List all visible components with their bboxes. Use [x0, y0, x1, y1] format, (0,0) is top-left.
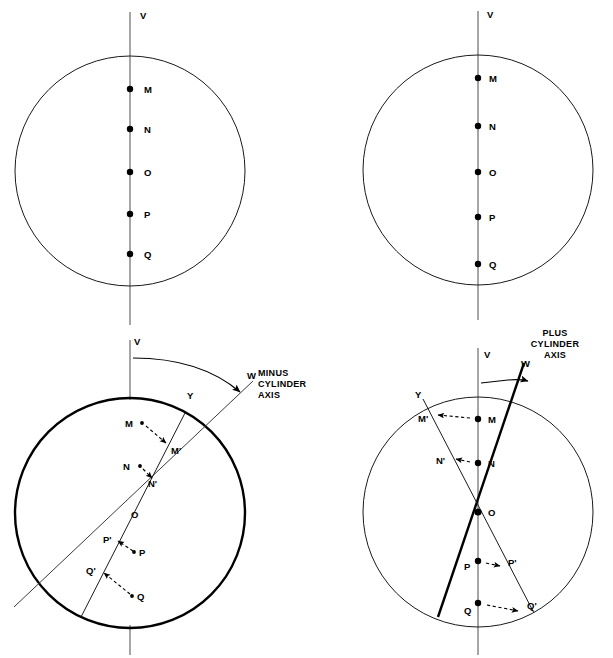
- point-label-n: N: [488, 458, 495, 469]
- displacement-arrow-q: [487, 605, 518, 611]
- axis-label-w: W: [247, 370, 256, 381]
- point-label-n: N: [489, 121, 496, 132]
- panel-top-right: V M N O P Q: [363, 9, 593, 320]
- point-dot-m: [140, 421, 144, 425]
- point-label-o: O: [131, 509, 138, 520]
- rotation-arc: [481, 380, 528, 383]
- point-dot-p: [132, 550, 136, 554]
- point-label-p: P: [144, 209, 151, 220]
- point-dot-n: [138, 464, 142, 468]
- cylinder-axis-diagram: V M N O P Q V M N O P Q: [0, 0, 613, 658]
- chord-label-y: Y: [415, 389, 422, 400]
- point-label-o: O: [144, 167, 151, 178]
- point-label-n: N: [123, 461, 130, 472]
- point-label-p: P: [464, 561, 471, 572]
- point-dot-q: [127, 251, 133, 257]
- displacement-arrow-m: [438, 415, 470, 418]
- point-label-q: Q: [144, 249, 151, 260]
- point-dot-m: [475, 75, 481, 81]
- caption-line-1: MINUS: [258, 368, 289, 378]
- panel-top-left: V M N O P Q: [15, 10, 245, 325]
- rotated-axis-line-w: [438, 363, 524, 617]
- point-dot-q: [475, 600, 481, 606]
- caption-line-1: PLUS: [542, 328, 567, 338]
- point-dot-n: [475, 460, 481, 466]
- displacement-arrow-q: [104, 573, 130, 594]
- axis-label-v: V: [484, 349, 491, 360]
- point-label-n-prime: N': [436, 455, 445, 466]
- point-label-q: Q: [464, 605, 471, 616]
- point-dot-p: [127, 211, 133, 217]
- caption-line-3: AXIS: [258, 390, 280, 400]
- point-label-o: O: [488, 507, 495, 518]
- displacement-arrow-p: [486, 563, 500, 566]
- caption-line-2: CYLINDER: [531, 339, 580, 349]
- figure-root: V M N O P Q V M N O P Q: [0, 0, 613, 658]
- panel-bottom-right-plus-cylinder: V W Y PLUS CYLINDER AXIS M M' N N' O P P…: [363, 328, 593, 655]
- point-dot-m: [475, 416, 481, 422]
- point-label-m-prime: M': [418, 413, 428, 424]
- point-label-m: M: [125, 418, 133, 429]
- displacement-arrow-n: [456, 459, 470, 462]
- displacement-arrow-n: [143, 469, 152, 478]
- point-dot-p: [475, 214, 481, 220]
- point-dot-o: [474, 508, 481, 515]
- point-label-p: P: [489, 212, 496, 223]
- axis-label-v: V: [140, 10, 147, 21]
- caption-line-2: CYLINDER: [258, 379, 307, 389]
- point-label-o: O: [489, 167, 496, 178]
- point-label-q-prime: Q': [86, 565, 96, 576]
- point-dot-o: [475, 169, 481, 175]
- point-dot-q: [475, 261, 481, 267]
- axis-label-w: W: [521, 358, 530, 369]
- point-label-p: P: [139, 547, 146, 558]
- displacement-arrow-m: [146, 426, 166, 443]
- rotation-arc: [133, 358, 240, 392]
- point-label-m: M: [144, 84, 152, 95]
- point-label-p-prime: P': [103, 534, 112, 545]
- rotated-axis-line-w: [14, 381, 253, 607]
- point-label-n: N: [144, 124, 151, 135]
- point-dot-q: [130, 594, 134, 598]
- point-label-m-prime: M': [171, 445, 181, 456]
- point-label-p-prime: P': [508, 557, 517, 568]
- point-label-q-prime: Q': [527, 600, 537, 611]
- point-label-q: Q: [137, 591, 144, 602]
- point-label-m: M: [488, 414, 496, 425]
- point-dot-m: [127, 86, 133, 92]
- point-dot-n: [127, 126, 133, 132]
- axis-label-v: V: [487, 9, 494, 20]
- point-label-n-prime: N': [148, 478, 157, 489]
- point-dot-p: [475, 558, 481, 564]
- point-dot-o: [127, 169, 133, 175]
- point-dot-n: [475, 123, 481, 129]
- panel-bottom-left-minus-cylinder: V W Y MINUS CYLINDER AXIS M M' N N' O P'…: [14, 336, 307, 655]
- axis-label-v: V: [134, 336, 141, 347]
- point-label-q: Q: [489, 259, 496, 270]
- displacement-arrow-p: [118, 541, 133, 551]
- caption-line-3: AXIS: [544, 350, 566, 360]
- chord-label-y: Y: [187, 390, 194, 401]
- point-label-m: M: [489, 73, 497, 84]
